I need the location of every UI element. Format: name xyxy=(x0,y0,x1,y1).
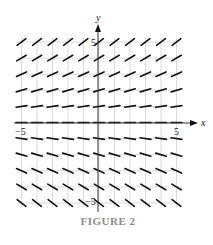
slope-segment xyxy=(140,106,151,108)
slope-segment xyxy=(171,106,182,108)
y-tick-label-neg5: −5 xyxy=(85,196,96,207)
slope-segment xyxy=(125,106,136,108)
x-tick-label-neg5: −5 xyxy=(15,126,26,137)
y-axis-arrow-icon xyxy=(95,24,101,32)
slope-segment xyxy=(109,138,120,140)
slope-segment xyxy=(78,138,89,140)
slope-segment xyxy=(16,106,27,108)
slope-segment xyxy=(16,138,27,140)
y-tick-label-5: 5 xyxy=(91,37,96,48)
x-axis-label: x xyxy=(200,117,206,128)
slope-segment xyxy=(171,138,182,140)
x-axis-arrow-icon xyxy=(190,120,198,126)
slope-segment xyxy=(94,138,105,140)
slope-field-diagram: x y −5 5 5 −5 xyxy=(0,0,213,245)
slope-segment xyxy=(32,106,43,108)
slope-segment xyxy=(47,138,58,140)
slope-segment xyxy=(156,138,167,140)
slope-segment xyxy=(32,138,43,140)
slope-segment xyxy=(63,138,74,140)
slope-segment xyxy=(78,106,89,108)
slope-segment xyxy=(94,106,105,108)
axes xyxy=(14,24,198,212)
y-axis-label: y xyxy=(95,12,101,23)
figure-caption: FIGURE 2 xyxy=(0,215,213,227)
slope-segment xyxy=(47,106,58,108)
slope-segment xyxy=(109,106,120,108)
x-tick-label-5: 5 xyxy=(174,126,179,137)
slope-segment xyxy=(156,106,167,108)
slope-segment xyxy=(125,138,136,140)
slope-segment xyxy=(140,138,151,140)
slope-segment xyxy=(63,106,74,108)
